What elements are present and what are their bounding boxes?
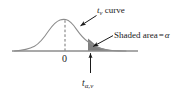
critical-value-subscript: α,ν: [85, 82, 94, 89]
shaded-area-value: α: [165, 30, 170, 40]
shaded-area-equals-sign: =: [158, 30, 165, 40]
t-distribution-figure-svg: [0, 0, 192, 95]
curve-label-leader-arrow: [81, 16, 97, 26]
origin-label: 0: [62, 54, 67, 64]
shaded-area-label-text: Shaded area: [114, 30, 158, 40]
critical-value-label: tα,ν: [82, 79, 93, 90]
curve-label-text: curve: [105, 5, 125, 15]
figure-container: tν curve Shaded area=α 0 tα,ν: [0, 0, 192, 95]
t-distribution-curve: [15, 19, 127, 51]
curve-label-subscript: ν: [100, 9, 103, 16]
shaded-area-label: Shaded area=α: [114, 31, 170, 40]
shaded-area-label-leader-arrow: [93, 36, 113, 47]
shaded-tail-region: [88, 39, 126, 51]
curve-label: tν curve: [97, 6, 125, 16]
